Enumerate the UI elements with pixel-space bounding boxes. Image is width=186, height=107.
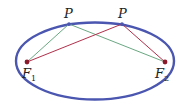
green-line-p1-f2 [69, 24, 165, 62]
diagram-canvas: P P F 1 F 2 [0, 0, 186, 107]
ellipse-diagram: P P F 1 F 2 [0, 0, 186, 107]
point-p1-dot [67, 22, 71, 26]
point-p2-dot [120, 22, 124, 26]
red-line-p2-f1 [27, 24, 122, 62]
label-p1: P [63, 6, 73, 21]
label-f1-subscript: 1 [31, 74, 36, 83]
focus-f2-dot [163, 60, 168, 65]
focus-f1-dot [25, 60, 30, 65]
label-p2: P [117, 6, 127, 21]
label-f2-subscript: 2 [164, 74, 169, 83]
